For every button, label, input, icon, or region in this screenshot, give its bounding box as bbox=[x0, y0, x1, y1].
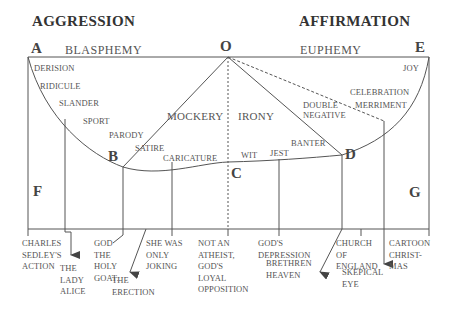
label-joy: JOY bbox=[403, 63, 419, 73]
label-satire: SATIRE bbox=[135, 143, 164, 153]
label-not-an-atheist: NOT AN ATHEIST, GOD'S LOYAL OPPOSITION bbox=[198, 238, 249, 296]
label-banter: BANTER bbox=[291, 138, 326, 148]
label-lady-alice: THE LADY ALICE bbox=[60, 263, 86, 298]
label-double-negative: DOUBLE NEGATIVE bbox=[303, 100, 346, 120]
label-derision: DERISION bbox=[34, 63, 74, 73]
point-c: C bbox=[231, 165, 242, 182]
label-sport: SPORT bbox=[83, 116, 109, 126]
label-charles-sedley: CHARLES SEDLEY'S ACTION bbox=[22, 238, 62, 273]
label-parody: PARODY bbox=[109, 130, 144, 140]
heading-aggression: AGGRESSION bbox=[32, 13, 135, 30]
label-cartoon-christmas: CARTOON CHRIST- MAS bbox=[389, 238, 430, 273]
arrow-erection bbox=[130, 229, 146, 272]
heading-affirmation: AFFIRMATION bbox=[299, 13, 410, 30]
point-a: A bbox=[31, 40, 42, 57]
point-g: G bbox=[409, 184, 421, 201]
label-ridicule: RIDICULE bbox=[40, 81, 80, 91]
point-o: O bbox=[220, 38, 232, 55]
label-wit: WIT bbox=[241, 150, 257, 160]
label-celebration: CELEBRATION bbox=[350, 87, 409, 97]
label-jest: JEST bbox=[270, 148, 289, 158]
arrow-lady-alice bbox=[65, 229, 71, 255]
label-blasphemy: BLASPHEMY bbox=[65, 43, 142, 58]
label-irony: IRONY bbox=[238, 110, 274, 122]
point-d: D bbox=[345, 146, 356, 163]
label-slander: SLANDER bbox=[59, 98, 99, 108]
label-she-was-joking: SHE WAS ONLY JOKING bbox=[146, 238, 183, 273]
point-f: F bbox=[33, 183, 42, 200]
point-b: B bbox=[108, 148, 118, 165]
label-euphemy: EUPHEMY bbox=[300, 43, 362, 58]
point-e: E bbox=[415, 39, 425, 56]
label-mockery: MOCKERY bbox=[167, 110, 224, 122]
label-caricature: CARICATURE bbox=[163, 153, 217, 163]
label-skeptical-eye: SKEPICAL EYE bbox=[342, 267, 383, 290]
label-brethren-heaven: BRETHREN HEAVEN bbox=[266, 258, 312, 281]
label-erection: THE ERECTION bbox=[112, 275, 155, 298]
label-merriment: MERRIMENT bbox=[355, 100, 407, 110]
